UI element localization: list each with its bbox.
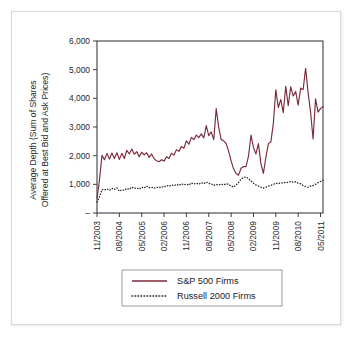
y-tick-label: 3,000 xyxy=(69,122,90,132)
x-tick-label: 05/2005 xyxy=(137,221,147,252)
x-tick-label: 08/2010 xyxy=(293,221,303,252)
x-tick-label: 11/2003 xyxy=(92,221,102,251)
y-tick-label: 5,000 xyxy=(69,65,90,75)
x-tick-label: 08/2004 xyxy=(114,221,124,252)
legend-label-sp500: S&P 500 Firms xyxy=(177,276,239,286)
x-tick-label: 05/2011 xyxy=(316,221,326,251)
y-tick-label: 4,000 xyxy=(69,93,90,103)
plot-frame xyxy=(97,41,323,213)
series-group xyxy=(97,68,323,202)
chart-legend: S&P 500 Firms Russell 2000 Firms xyxy=(122,270,282,306)
y-axis-title: Average Depth (Sum of Shares Offered at … xyxy=(28,73,50,208)
y-tick-label: 2,000 xyxy=(69,151,90,161)
y-axis-ticks: 6,0005,0004,0003,0002,0001,000– xyxy=(69,36,97,218)
y-axis-title-line2: Offered at Best Bid and Ask Prices) xyxy=(40,73,50,208)
x-tick-label: 11/2009 xyxy=(271,221,281,251)
y-axis-title-line1: Average Depth (Sum of Shares xyxy=(28,80,38,199)
line-chart: Average Depth (Sum of Shares Offered at … xyxy=(12,12,342,326)
x-tick-label: 02/2009 xyxy=(248,221,258,252)
x-tick-label: 02/2006 xyxy=(159,221,169,252)
chart-area: Average Depth (Sum of Shares Offered at … xyxy=(12,12,342,326)
figure-card: Average Depth (Sum of Shares Offered at … xyxy=(11,11,341,325)
y-tick-label: 6,000 xyxy=(69,36,90,46)
legend-label-russell2000: Russell 2000 Firms xyxy=(177,291,256,301)
series-line-russell-2000-firms xyxy=(97,177,323,202)
x-tick-label: 11/2006 xyxy=(181,221,191,251)
y-tick-label: – xyxy=(85,208,90,218)
y-tick-label: 1,000 xyxy=(69,179,90,189)
x-tick-label: 08/2007 xyxy=(204,221,214,252)
x-axis-ticks: 11/200308/200405/200502/200611/200608/20… xyxy=(92,213,326,251)
x-tick-label: 05/2008 xyxy=(226,221,236,252)
series-line-s-p-500-firms xyxy=(97,68,323,198)
